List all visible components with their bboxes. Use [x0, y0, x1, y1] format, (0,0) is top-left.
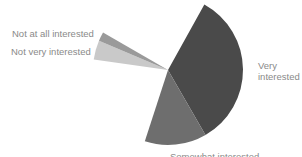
label-not-at-all-interested: Not at all interested: [12, 28, 94, 39]
label-very-interested: Very interested: [258, 60, 302, 82]
label-somewhat-interested: Somewhat interested: [170, 151, 259, 157]
pie-chart: [0, 0, 302, 157]
label-not-very-interested: Not very interested: [11, 46, 91, 57]
pie-slice-not-very-interested: [94, 41, 168, 70]
